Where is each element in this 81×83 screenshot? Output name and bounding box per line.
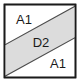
region-label-lower-right: A1 [50,56,66,71]
region-label-upper-left: A1 [16,12,32,27]
region-label-band: D2 [33,35,50,50]
diagram-container: A1 D2 A1 [0,0,81,83]
layer-cross-section-diagram: A1 D2 A1 [0,0,81,83]
